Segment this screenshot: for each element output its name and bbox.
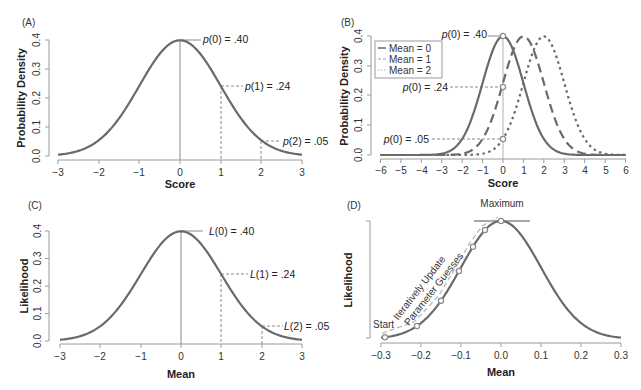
svg-text:0.2: 0.2: [32, 279, 43, 293]
svg-text:−2: −2: [457, 165, 469, 176]
svg-text:0.0: 0.0: [31, 149, 42, 163]
panel-c-annotation-L0: L(0) = .40: [209, 225, 254, 237]
panel-b-y-ticks: [367, 36, 371, 155]
panel-a-y-tick-labels: 0.0 0.1 0.2 0.3 0.4: [31, 33, 42, 163]
svg-text:1: 1: [218, 167, 224, 178]
panel-c-x-tick-labels: −3 −2 −1 0 1 2 3: [54, 351, 305, 362]
panel-d-x-ticks: [381, 343, 621, 347]
svg-text:1: 1: [218, 351, 224, 362]
svg-text:0.1: 0.1: [31, 120, 42, 134]
panel-b-marker-024: [500, 84, 505, 89]
svg-text:0.3: 0.3: [32, 251, 43, 265]
panel-c-annotation-L2: L(2) = .05: [284, 320, 329, 332]
svg-text:5: 5: [603, 165, 609, 176]
panel-a-annotation-p0: p(0) = .40: [202, 33, 248, 45]
panel-a-x-ticks: [58, 160, 302, 164]
panel-b-annotation-040: p(0) = .40: [441, 28, 487, 40]
svg-text:0.3: 0.3: [353, 59, 364, 73]
panel-c-x-ticks: [60, 344, 302, 348]
svg-text:−2: −2: [94, 351, 106, 362]
svg-text:2: 2: [259, 351, 265, 362]
panel-b-label: (B): [341, 17, 354, 28]
panel-c-label: (C): [28, 200, 42, 211]
svg-text:0.3: 0.3: [31, 62, 42, 76]
svg-text:0: 0: [500, 165, 506, 176]
svg-text:0.0: 0.0: [494, 350, 508, 361]
panel-a-x-title: Score: [165, 178, 196, 190]
panel-b-annotation-024: p(0) = .24: [402, 81, 448, 93]
panel-b-marker-040: [500, 33, 505, 38]
svg-text:3: 3: [562, 165, 568, 176]
svg-text:0: 0: [177, 167, 183, 178]
svg-text:0.2: 0.2: [31, 91, 42, 105]
panel-a-label: (A): [22, 17, 35, 28]
panel-b: (B) 0.0 0.1 0.2 0.3 0.4 Probability Dens…: [338, 17, 629, 189]
svg-text:0: 0: [178, 351, 184, 362]
panel-b-y-tick-labels: 0.0 0.1 0.2 0.3 0.4: [353, 29, 364, 162]
panel-b-annotation-005: p(0) = .05: [383, 133, 429, 145]
figure-canvas: (A) 0.0 0.1 0.2 0.3 0.4 Probability Dens…: [0, 0, 641, 390]
legend-entry-mean-2: Mean = 2: [389, 65, 431, 76]
svg-text:3: 3: [299, 351, 305, 362]
panel-b-x-tick-labels: −6 −5 −4 −3 −2 −1 0 1 2 3 4 5 6: [375, 165, 629, 176]
panel-b-y-title: Probability Density: [338, 45, 350, 146]
panel-d-start-label: Start: [373, 319, 394, 330]
svg-text:6: 6: [623, 165, 629, 176]
svg-text:3: 3: [299, 167, 305, 178]
svg-text:0.4: 0.4: [32, 224, 43, 238]
panel-a-x-tick-labels: −3 −2 −1 0 1 2 3: [52, 167, 305, 178]
panel-c-y-ticks: [45, 231, 49, 341]
panel-d-y-title: Likelihood: [342, 253, 354, 308]
svg-text:−1: −1: [477, 165, 489, 176]
panel-d-x-tick-labels: −0.3 −0.2 −0.1 0.0 0.1 0.2 0.3: [371, 350, 628, 361]
svg-text:−0.1: −0.1: [451, 350, 471, 361]
panel-a: (A) 0.0 0.1 0.2 0.3 0.4 Probability Dens…: [15, 17, 328, 190]
svg-text:2: 2: [541, 165, 547, 176]
svg-text:−3: −3: [54, 351, 66, 362]
panel-a-y-title: Probability Density: [15, 47, 27, 148]
svg-text:−5: −5: [395, 165, 407, 176]
svg-text:0.2: 0.2: [353, 88, 364, 102]
svg-text:−1: −1: [135, 351, 147, 362]
svg-text:−0.2: −0.2: [411, 350, 431, 361]
panel-d-x-title: Mean: [487, 366, 515, 378]
svg-text:−3: −3: [436, 165, 448, 176]
panel-b-marker-005: [500, 136, 505, 141]
svg-text:4: 4: [582, 165, 588, 176]
panel-c-annotation-L1: L(1) = .24: [250, 268, 295, 280]
svg-text:2: 2: [258, 167, 264, 178]
panel-a-annotation-p1: p(1) = .24: [244, 80, 290, 92]
svg-text:0.0: 0.0: [353, 148, 364, 162]
legend-entry-mean-1: Mean = 1: [389, 54, 431, 65]
svg-text:0.3: 0.3: [614, 350, 628, 361]
svg-text:0.4: 0.4: [353, 29, 364, 43]
svg-text:0.1: 0.1: [32, 306, 43, 320]
panel-d-label: (D): [347, 200, 361, 211]
svg-text:−0.3: −0.3: [371, 350, 391, 361]
svg-text:−1: −1: [133, 167, 145, 178]
panel-d-maximum-label: Maximum: [480, 198, 523, 209]
svg-text:−2: −2: [93, 167, 105, 178]
legend-entry-mean-0: Mean = 0: [389, 43, 431, 54]
svg-text:0.0: 0.0: [32, 334, 43, 348]
panel-a-annotation-p2: p(2) = .05: [282, 135, 328, 147]
svg-text:0.1: 0.1: [353, 118, 364, 132]
panel-c-x-title: Mean: [167, 368, 195, 380]
svg-text:0.2: 0.2: [574, 350, 588, 361]
panel-d-likelihood-curve: [381, 221, 621, 338]
svg-text:1: 1: [521, 165, 527, 176]
panel-c: (C) 0.0 0.1 0.2 0.3 0.4 Likelihood: [18, 200, 329, 380]
panel-b-x-ticks: [380, 159, 625, 163]
svg-text:−3: −3: [52, 167, 64, 178]
svg-text:−4: −4: [416, 165, 428, 176]
panel-b-legend: Mean = 0 Mean = 1 Mean = 2: [375, 41, 442, 78]
panel-c-y-title: Likelihood: [18, 259, 30, 314]
svg-text:0.1: 0.1: [534, 350, 548, 361]
panel-b-x-title: Score: [488, 177, 519, 189]
panel-a-y-ticks: [45, 40, 49, 156]
panel-c-y-tick-labels: 0.0 0.1 0.2 0.3 0.4: [32, 224, 43, 348]
svg-text:−6: −6: [375, 165, 387, 176]
svg-text:0.4: 0.4: [31, 33, 42, 47]
panel-d: (D) Maximum Likelihood −0.3 −0.2 −0.1 0.…: [342, 198, 628, 378]
